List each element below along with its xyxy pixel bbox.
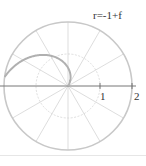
angular-grid-line: [68, 31, 100, 86]
angular-grid-line: [68, 86, 123, 118]
equation-label: r=-1+f: [93, 9, 122, 21]
angular-grid-line: [13, 86, 68, 118]
radial-tick-label-2: 2: [134, 90, 140, 102]
polar-plot: r=-1+f 1 2: [0, 0, 146, 166]
bottom-divider: [0, 155, 146, 156]
radial-tick-label-1: 1: [100, 90, 106, 102]
